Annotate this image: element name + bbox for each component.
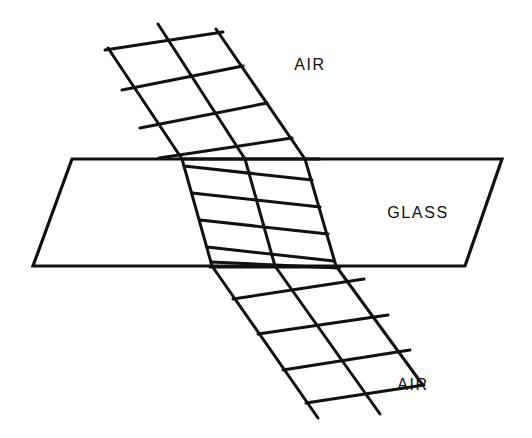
wavefront-line <box>122 66 243 90</box>
label-air-bottom: AIR <box>397 376 428 393</box>
label-air-top: AIR <box>294 56 325 73</box>
ray-line <box>275 266 380 414</box>
wavefront-line <box>140 103 267 128</box>
region-labels: AIRGLASSAIR <box>294 56 448 393</box>
ray-line <box>305 159 336 266</box>
ray-line <box>336 266 422 384</box>
incident-beam <box>105 24 319 159</box>
figure-canvas: AIRGLASSAIR <box>0 0 532 438</box>
wavefront-line <box>159 138 292 158</box>
ray-line <box>158 24 245 159</box>
ray-line <box>182 159 212 266</box>
wavefront-line <box>233 279 364 299</box>
ray-line <box>108 48 182 159</box>
refraction-diagram: AIRGLASSAIR <box>0 0 532 438</box>
emergent-beam <box>210 266 424 418</box>
label-glass: GLASS <box>387 204 448 221</box>
refracted-beam-in-glass <box>182 159 339 268</box>
